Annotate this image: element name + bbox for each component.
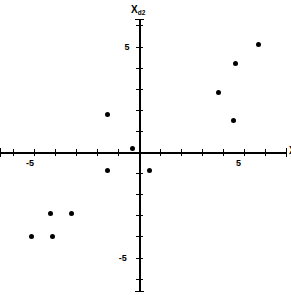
y-tick bbox=[136, 236, 143, 237]
y-tick bbox=[136, 215, 143, 216]
y-tick bbox=[136, 47, 143, 48]
y-axis-title-subscript: d2 bbox=[138, 9, 146, 16]
y-axis-endcap bbox=[135, 19, 144, 20]
x-tick bbox=[265, 149, 266, 156]
y-axis-line bbox=[139, 19, 141, 291]
y-tick-label: 5 bbox=[124, 43, 129, 52]
x-axis-endcap bbox=[286, 148, 287, 157]
x-tick bbox=[97, 149, 98, 156]
x-tick bbox=[202, 149, 203, 156]
x-axis-title: Xd1 bbox=[289, 146, 291, 156]
y-tick bbox=[136, 89, 143, 90]
y-tick bbox=[136, 258, 143, 259]
data-point bbox=[105, 112, 110, 117]
x-tick-label: 5 bbox=[236, 159, 241, 168]
x-tick bbox=[13, 149, 14, 156]
data-point bbox=[130, 146, 135, 151]
y-tick bbox=[136, 194, 143, 195]
data-point bbox=[231, 118, 236, 123]
y-tick bbox=[136, 131, 143, 132]
data-point bbox=[29, 234, 34, 239]
data-point bbox=[50, 234, 55, 239]
y-tick bbox=[136, 279, 143, 280]
data-point bbox=[256, 42, 261, 47]
y-tick bbox=[136, 110, 143, 111]
x-tick bbox=[181, 149, 182, 156]
data-point bbox=[147, 168, 152, 173]
data-point bbox=[233, 61, 238, 66]
x-tick bbox=[55, 149, 56, 156]
x-tick bbox=[118, 149, 119, 156]
x-axis-title-base: X bbox=[289, 145, 291, 156]
y-tick bbox=[136, 173, 143, 174]
x-tick-label: -5 bbox=[26, 159, 34, 168]
data-point bbox=[105, 168, 110, 173]
x-tick bbox=[223, 149, 224, 156]
x-tick bbox=[160, 149, 161, 156]
x-tick bbox=[34, 149, 35, 156]
y-tick bbox=[136, 68, 143, 69]
data-point bbox=[48, 211, 53, 216]
data-point bbox=[69, 211, 74, 216]
y-axis-endcap bbox=[135, 291, 144, 292]
x-tick bbox=[244, 149, 245, 156]
x-axis-endcap bbox=[0, 148, 1, 157]
y-tick-label: -5 bbox=[119, 254, 127, 263]
y-axis-title: Xd2 bbox=[131, 5, 145, 15]
scatter-plot: -55 5-5 Xd1 Xd2 bbox=[0, 0, 291, 295]
y-tick bbox=[136, 25, 143, 26]
data-point bbox=[216, 90, 221, 95]
y-axis-title-base: X bbox=[131, 4, 138, 15]
x-tick bbox=[76, 149, 77, 156]
